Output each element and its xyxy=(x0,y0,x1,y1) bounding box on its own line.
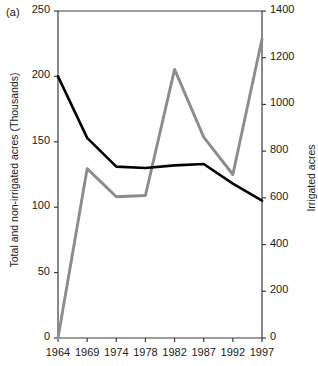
right-tick-label: 0 xyxy=(270,330,310,342)
left-tick-label: 150 xyxy=(16,134,50,146)
right-tick-label: 400 xyxy=(270,237,310,249)
left-tick-label: 100 xyxy=(16,199,50,211)
series-line-irrigated-acres xyxy=(58,39,262,338)
right-tick-label: 200 xyxy=(270,283,310,295)
left-tick-label: 250 xyxy=(16,3,50,15)
x-tick-label: 1997 xyxy=(242,346,282,358)
chart-figure: (a) Total and non-irrigated acres (Thous… xyxy=(0,0,318,366)
left-tick-label: 50 xyxy=(16,265,50,277)
right-tick-label: 600 xyxy=(270,190,310,202)
right-tick-label: 1400 xyxy=(270,3,310,15)
right-tick-label: 800 xyxy=(270,143,310,155)
right-tick-label: 1000 xyxy=(270,96,310,108)
right-tick-label: 1200 xyxy=(270,50,310,62)
left-tick-label: 200 xyxy=(16,68,50,80)
left-tick-label: 0 xyxy=(16,330,50,342)
